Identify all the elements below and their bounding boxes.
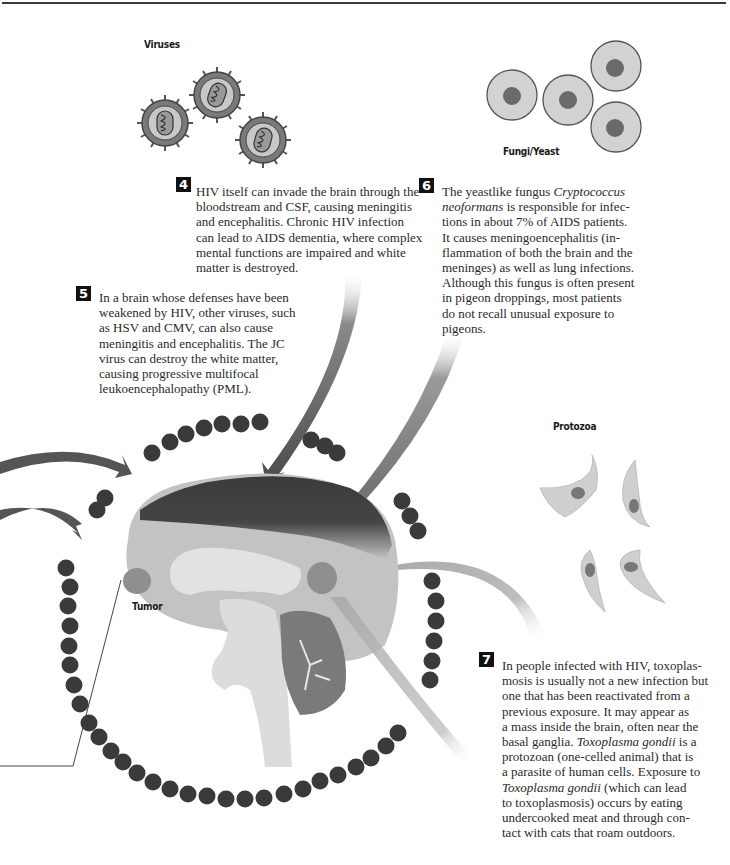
protozoa-icon <box>623 460 651 527</box>
dot <box>218 791 235 808</box>
text-line: Toxoplasma gondii (which can lead <box>502 780 730 795</box>
protozoa-icon <box>581 550 605 612</box>
dot <box>295 781 312 798</box>
dot <box>252 414 269 431</box>
text-line: mental functions are impaired and white <box>196 245 456 260</box>
callout-number-5: 5 <box>76 286 91 301</box>
callout-4-text: HIV itself can invade the brain through … <box>196 184 456 275</box>
arrow-icon <box>342 330 465 520</box>
dot <box>428 593 445 610</box>
text-line: meninges) as well as lung infections. <box>442 260 682 275</box>
arrow-icon <box>383 558 548 640</box>
dot <box>422 672 439 689</box>
text-line: matter is destroyed. <box>196 260 456 275</box>
yeast-cell-icon <box>487 70 537 120</box>
text-line: do not recall unusual exposure to <box>442 306 682 321</box>
text-line: virus can destroy the white matter, <box>99 351 329 366</box>
dot <box>145 774 162 791</box>
dot <box>58 560 75 577</box>
dot <box>233 416 250 433</box>
lesion <box>307 562 337 594</box>
dot <box>162 434 179 451</box>
yeast-cell-icon <box>543 75 593 125</box>
dot <box>144 445 161 462</box>
dot <box>378 738 395 755</box>
dot <box>180 786 197 803</box>
dot <box>363 750 380 767</box>
virus-icon <box>235 112 291 168</box>
dot <box>424 653 441 670</box>
protozoa-icons <box>540 455 665 612</box>
dot <box>426 633 443 650</box>
text-line: mosis is usually not a new infection but <box>502 673 730 688</box>
dot <box>196 420 213 437</box>
brain-illustration <box>123 474 475 767</box>
callout-7-text: In people infected with HIV, toxoplas- m… <box>502 658 730 840</box>
dot <box>410 523 427 540</box>
text-line: neoformans is responsible for infec- <box>442 199 682 214</box>
dot <box>178 426 195 443</box>
protozoa-icon <box>620 550 665 603</box>
callout-5-text: In a brain whose defenses have been weak… <box>99 290 329 396</box>
dot <box>115 754 132 771</box>
dot <box>162 781 179 798</box>
text-line: It causes meningoencephalitis (in- <box>442 230 682 245</box>
dot <box>61 638 78 655</box>
text-line: a mass inside the brain, often near the <box>502 719 730 734</box>
virus-icon <box>137 95 193 151</box>
callout-6-text: The yeastlike fungus Cryptococcus neofor… <box>442 184 682 336</box>
dot <box>330 767 347 784</box>
dot <box>428 613 445 630</box>
text-line: causing progressive multifocal <box>99 366 329 381</box>
yeast-cell-icon <box>591 102 641 152</box>
text-line: tact with cats that roam outdoors. <box>502 825 730 840</box>
yeast-cell-icons <box>487 41 641 152</box>
text-line: can lead to AIDS dementia, where complex <box>196 230 456 245</box>
viruses-label: Viruses <box>144 38 180 51</box>
dot <box>312 773 329 790</box>
text-line: In a brain whose defenses have been <box>99 290 329 305</box>
dot <box>62 579 79 596</box>
dot <box>60 598 77 615</box>
dot <box>81 715 98 732</box>
text-line: basal ganglia. Toxoplasma gondii is a <box>502 734 730 749</box>
dot <box>214 416 231 433</box>
dot <box>62 618 79 635</box>
yeast-cell-icon <box>591 41 641 91</box>
text-line: one that has been reactivated from a <box>502 688 730 703</box>
dot <box>66 677 83 694</box>
callout-number-7: 7 <box>479 652 494 667</box>
fungi-label: Fungi/Yeast <box>503 145 559 158</box>
text-line: Although this fungus is often present <box>442 275 682 290</box>
dot <box>329 445 346 462</box>
text-line: The yeastlike fungus Cryptococcus <box>442 184 682 199</box>
text-line: a parasite of human cells. Exposure to <box>502 764 730 779</box>
dot <box>62 657 79 674</box>
text-line: meningitis and encephalitis. The JC <box>99 336 329 351</box>
protozoa-icon <box>540 455 597 517</box>
text-line: protozoan (one-celled animal) that is <box>502 749 730 764</box>
dot <box>424 573 441 590</box>
virus-icons <box>137 67 291 168</box>
text-line: weakened by HIV, other viruses, such <box>99 305 329 320</box>
text-line: pigeons. <box>442 321 682 336</box>
dot <box>256 790 273 807</box>
text-line: to toxoplasmosis) occurs by eating <box>502 795 730 810</box>
dot <box>237 791 254 808</box>
arrow-icon <box>0 452 132 478</box>
callout-number-6: 6 <box>419 178 434 193</box>
dot <box>394 493 411 510</box>
dot <box>129 765 146 782</box>
text-line: flammation of both the brain and the <box>442 245 682 260</box>
dot <box>348 759 365 776</box>
text-line: and encephalitis. Chronic HIV infection <box>196 214 456 229</box>
dot <box>390 725 407 742</box>
dot <box>402 508 419 525</box>
dot <box>89 502 106 519</box>
callout-number-4: 4 <box>176 177 191 192</box>
text-line: undercooked meat and through con- <box>502 810 730 825</box>
text-line: HIV itself can invade the brain through … <box>196 184 456 199</box>
text-line: tions in about 7% of AIDS patients. <box>442 214 682 229</box>
dot <box>276 786 293 803</box>
text-line: as HSV and CMV, can also cause <box>99 320 329 335</box>
